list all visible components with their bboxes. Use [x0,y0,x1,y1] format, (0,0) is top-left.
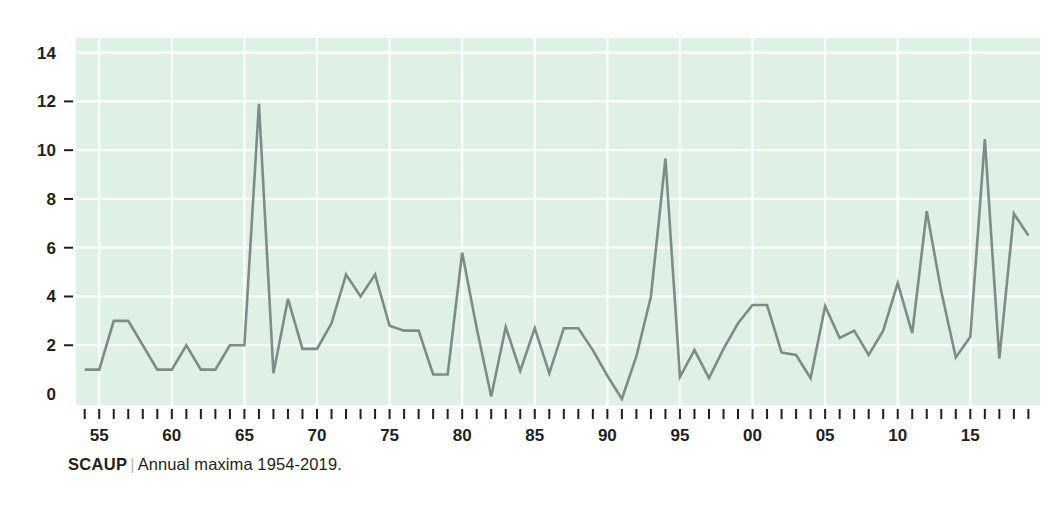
caption-subtitle: Annual maxima 1954-2019. [138,455,342,473]
svg-text:55: 55 [90,426,109,445]
chart-figure: 02468101214 55606570758085909500051015 S… [0,0,1061,508]
y-axis-ticks [64,101,73,345]
caption-divider: | [127,455,137,473]
svg-text:05: 05 [816,426,835,445]
svg-text:4: 4 [47,287,57,306]
svg-text:14: 14 [37,44,56,63]
svg-text:00: 00 [743,426,762,445]
svg-text:10: 10 [888,426,907,445]
svg-text:80: 80 [453,426,472,445]
svg-text:12: 12 [37,92,56,111]
svg-text:75: 75 [380,426,399,445]
svg-text:85: 85 [525,426,544,445]
svg-text:60: 60 [162,426,181,445]
svg-text:70: 70 [308,426,327,445]
x-axis-ticks [85,409,1029,419]
svg-text:65: 65 [235,426,254,445]
svg-text:2: 2 [47,336,56,355]
chart-caption: SCAUP|Annual maxima 1954-2019. [68,455,342,474]
svg-text:10: 10 [37,141,56,160]
svg-text:0: 0 [47,385,56,404]
svg-text:8: 8 [47,190,56,209]
svg-text:90: 90 [598,426,617,445]
svg-text:95: 95 [670,426,689,445]
scaup-annual-maxima-chart: 02468101214 55606570758085909500051015 [0,0,1061,508]
svg-text:6: 6 [47,239,56,258]
caption-species: SCAUP [68,455,127,473]
x-axis-tick-labels: 55606570758085909500051015 [90,426,980,445]
y-axis-tick-labels: 02468101214 [37,44,56,404]
svg-text:15: 15 [961,426,980,445]
